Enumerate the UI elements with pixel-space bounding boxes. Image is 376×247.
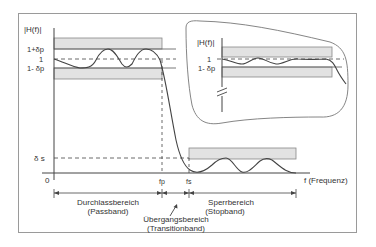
y-tick-upper: 1+δp [27,45,44,54]
y-axis-label: |H(f)| [24,25,41,34]
passband-lower-band [54,68,162,79]
passband-upper-band [54,38,162,49]
inset-y-tick-one: 1 [207,55,211,64]
stopband-label: Sperrbereich [208,198,254,207]
passband-label: Durchlassbereich [77,198,139,207]
passband-sublabel: (Passband) [88,207,129,216]
stopband-sublabel: (Stopband) [205,207,245,216]
stopband-band [189,148,296,159]
transition-label: Übergangsbereich [143,215,208,224]
inset-upper-band [222,47,332,57]
x-tick-fs: fs [186,178,192,185]
y-tick-delta-s: δ s [34,154,45,163]
inset-lower-band [222,67,332,77]
transition-sublabel: (Transitionband) [147,224,205,233]
y-tick-one: 1 [39,55,43,64]
inset-y-axis-label: |H(f)| [197,38,214,47]
x-axis-label: f (Frequenz) [304,176,348,185]
filter-tolerance-diagram: |H(f)| 1+δp 1 1- δp δ s 0 fp fs f (Frequ… [0,0,376,247]
y-tick-zero: 0 [45,176,50,185]
inset-y-tick-lower: 1- δp [198,64,215,73]
x-tick-fp: fp [159,178,165,186]
y-tick-lower: 1- δp [27,64,44,73]
